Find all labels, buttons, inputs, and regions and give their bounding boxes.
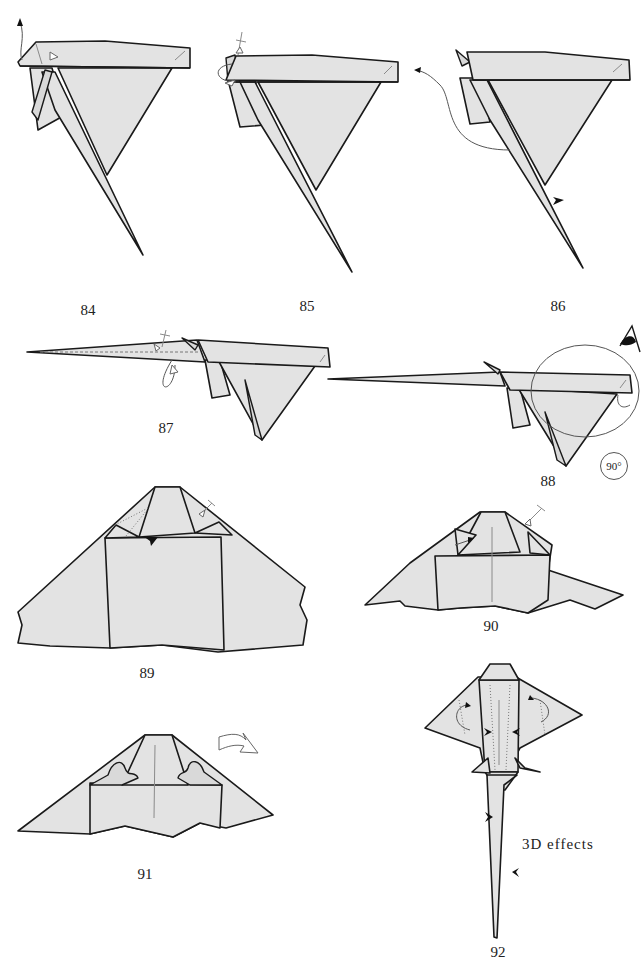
view-eye-icon	[620, 326, 640, 352]
step-87-figure	[27, 330, 330, 440]
hollow-arrow-icon	[236, 47, 243, 53]
step-85-figure	[218, 32, 398, 272]
step-89-figure	[18, 487, 307, 652]
step-84-figure	[17, 18, 190, 255]
step-label-92: 92	[491, 944, 506, 961]
step-90-figure	[365, 505, 623, 613]
step-92-figure	[425, 664, 582, 938]
step-label-87: 87	[159, 420, 174, 437]
step-label-89: 89	[140, 665, 155, 682]
step-label-91: 91	[138, 866, 153, 883]
step-92-note: 3D effects	[522, 836, 594, 853]
step-label-85: 85	[300, 298, 315, 315]
arrowhead-icon	[414, 67, 421, 73]
step-86-figure	[414, 50, 630, 268]
push-arrowhead-icon	[512, 868, 519, 877]
step-label-90: 90	[484, 618, 499, 635]
step-label-84: 84	[81, 302, 96, 319]
arrowhead-icon	[17, 18, 23, 26]
step-label-88: 88	[541, 473, 556, 490]
origami-diagram-page: 84 85 86 87 88 89 90 91 92 90° 3D effect…	[0, 0, 644, 964]
turn-over-icon	[219, 733, 258, 753]
rotation-value: 90°	[606, 460, 621, 472]
step-88-figure	[328, 326, 644, 466]
step-91-figure	[18, 735, 273, 837]
rotate-90-icon: 90°	[600, 452, 628, 480]
step-label-86: 86	[551, 298, 566, 315]
push-arrowhead-icon	[553, 197, 564, 205]
